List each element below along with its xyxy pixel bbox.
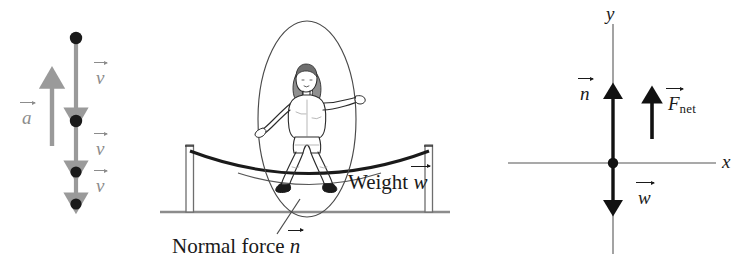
- normal-force-symbol-label: n: [580, 84, 590, 103]
- acceleration-label: a: [22, 108, 32, 127]
- physics-figure: a v v v Weight w Normal force n y x n w …: [0, 0, 754, 270]
- motion-dot: [70, 166, 81, 177]
- weight-symbol-label: w: [638, 188, 651, 207]
- normal-force-label: Normal force n: [172, 236, 300, 257]
- free-body-panel: [508, 24, 716, 254]
- pictorial-panel: [160, 21, 450, 234]
- particle-dot: [608, 158, 618, 168]
- motion-dot: [70, 32, 82, 44]
- motion-diagram-panel: [52, 32, 82, 210]
- trampoline-post-left: [185, 145, 194, 212]
- motion-dot: [70, 115, 82, 127]
- velocity-label-3: v: [96, 176, 104, 195]
- x-axis-label: x: [722, 152, 730, 171]
- y-axis-label: y: [606, 4, 614, 23]
- net-force-symbol-label: Fnet: [668, 94, 696, 116]
- velocity-label-1: v: [96, 68, 104, 87]
- weight-label: Weight w: [348, 172, 427, 193]
- motion-dot: [70, 198, 81, 209]
- velocity-label-2: v: [96, 139, 104, 158]
- figure-canvas: [0, 0, 754, 270]
